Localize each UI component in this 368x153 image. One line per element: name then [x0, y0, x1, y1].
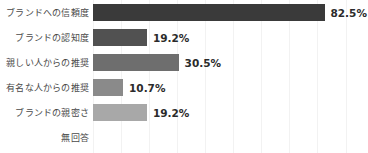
bar-value-label: 82.5%	[331, 0, 367, 25]
bar	[93, 54, 179, 71]
chart-rows: ブランドへの信頼度82.5%ブランドの認知度19.2%親しい人からの推奨30.5…	[0, 0, 368, 153]
bar-value-label: 30.5%	[185, 50, 221, 75]
horizontal-bar-chart: ブランドへの信頼度82.5%ブランドの認知度19.2%親しい人からの推奨30.5…	[0, 0, 368, 153]
chart-bar-row: 有名な人からの推奨10.7%	[0, 75, 368, 100]
category-label: 有名な人からの推奨	[0, 75, 89, 100]
bar	[93, 79, 123, 96]
chart-bar-row: ブランドの認知度19.2%	[0, 25, 368, 50]
chart-bar-row: ブランドの親密さ19.2%	[0, 100, 368, 125]
bar-value-label: 10.7%	[129, 75, 165, 100]
category-label: ブランドへの信頼度	[0, 0, 89, 25]
chart-bar-row: 親しい人からの推奨30.5%	[0, 50, 368, 75]
bar-value-label: 19.2%	[153, 100, 189, 125]
bar-value-label: 19.2%	[153, 25, 189, 50]
category-label: ブランドの認知度	[0, 25, 89, 50]
chart-bar-row: ブランドへの信頼度82.5%	[0, 0, 368, 25]
category-label: ブランドの親密さ	[0, 100, 89, 125]
category-label: 無回答	[0, 125, 89, 150]
bar	[93, 29, 147, 46]
bar	[93, 104, 147, 121]
chart-bar-row: 無回答	[0, 125, 368, 150]
bar	[93, 4, 325, 21]
category-label: 親しい人からの推奨	[0, 50, 89, 75]
